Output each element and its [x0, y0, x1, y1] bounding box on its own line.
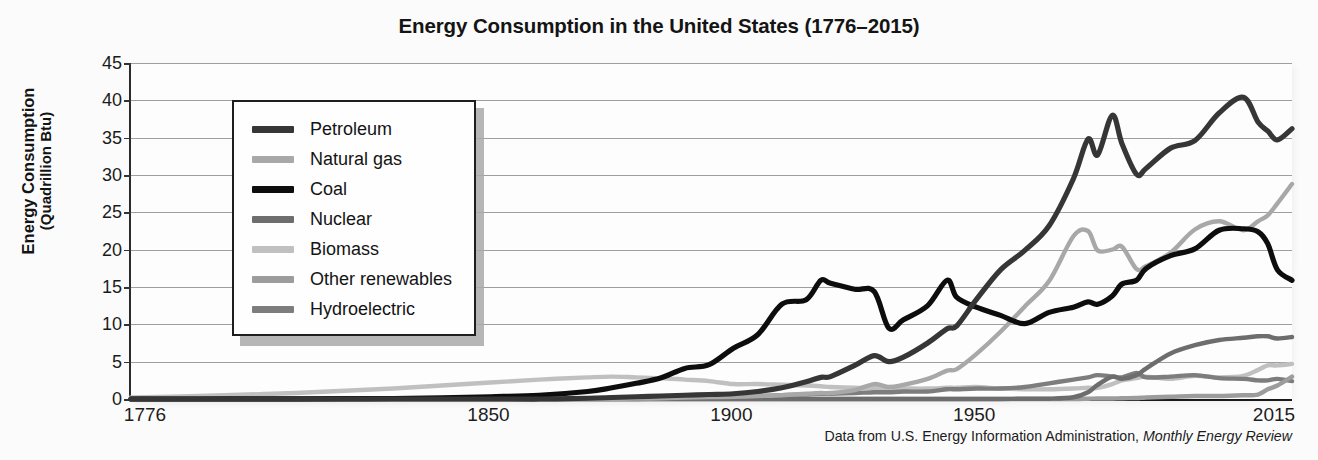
y-axis-title-main: Energy Consumption [20, 88, 38, 255]
y-tick-label: 45 [78, 53, 122, 74]
x-tick-label: 1850 [467, 404, 509, 426]
y-tick-label: 25 [78, 202, 122, 223]
legend-swatch-icon [252, 156, 294, 163]
y-tick-label: 5 [78, 351, 122, 372]
legend-swatch-icon [252, 246, 294, 253]
legend-swatch-icon [252, 306, 294, 313]
y-tick-mark [124, 250, 131, 252]
y-tick-mark [124, 287, 131, 289]
source-note-publication: Monthly Energy Review [1143, 428, 1292, 444]
legend-swatch-icon [252, 216, 294, 223]
y-tick-mark [124, 362, 131, 364]
legend[interactable]: PetroleumNatural gasCoalNuclearBiomassOt… [232, 100, 476, 336]
y-tick-mark [124, 212, 131, 214]
y-tick-label: 15 [78, 277, 122, 298]
legend-item-label: Nuclear [310, 210, 372, 228]
legend-swatch-icon [252, 276, 294, 283]
y-tick-label: 0 [78, 389, 122, 410]
legend-item-label: Natural gas [310, 150, 402, 168]
x-tick-label: 2015 [1253, 404, 1295, 426]
legend-item-coal[interactable]: Coal [234, 174, 474, 204]
x-tick-label: 1900 [710, 404, 752, 426]
y-tick-label: 30 [78, 165, 122, 186]
source-note: Data from U.S. Energy Information Admini… [824, 428, 1292, 444]
legend-swatch-icon [252, 186, 294, 193]
legend-item-label: Biomass [310, 240, 379, 258]
y-axis-title: Energy Consumption (Quadrillion Btu) [9, 0, 65, 351]
legend-item-biomass[interactable]: Biomass [234, 234, 474, 264]
legend-item-other-renewables[interactable]: Other renewables [234, 264, 474, 294]
y-tick-label: 10 [78, 314, 122, 335]
y-tick-mark [124, 63, 131, 65]
y-tick-mark [124, 175, 131, 177]
page-title: Energy Consumption in the United States … [0, 14, 1318, 38]
y-axis-title-units: (Quadrillion Btu) [38, 112, 54, 230]
y-tick-mark [124, 324, 131, 326]
legend-item-petroleum[interactable]: Petroleum [234, 114, 474, 144]
legend-item-hydroelectric[interactable]: Hydroelectric [234, 294, 474, 324]
legend-item-label: Petroleum [310, 120, 392, 138]
y-tick-mark [124, 100, 131, 102]
legend-swatch-icon [252, 126, 294, 133]
y-tick-label: 35 [78, 127, 122, 148]
y-tick-mark [124, 138, 131, 140]
legend-item-label: Other renewables [310, 270, 452, 288]
legend-item-label: Hydroelectric [310, 300, 415, 318]
source-note-text: Data from U.S. Energy Information Admini… [824, 428, 1143, 444]
y-tick-label: 40 [78, 90, 122, 111]
x-tick-label: 1776 [124, 404, 166, 426]
legend-item-label: Coal [310, 180, 347, 198]
y-tick-label: 20 [78, 239, 122, 260]
legend-item-nuclear[interactable]: Nuclear [234, 204, 474, 234]
chart-root: Energy Consumption in the United States … [0, 0, 1318, 460]
x-tick-label: 1950 [953, 404, 995, 426]
y-axis-tick-labels: 454035302520151050 [72, 0, 122, 460]
legend-item-natural-gas[interactable]: Natural gas [234, 144, 474, 174]
